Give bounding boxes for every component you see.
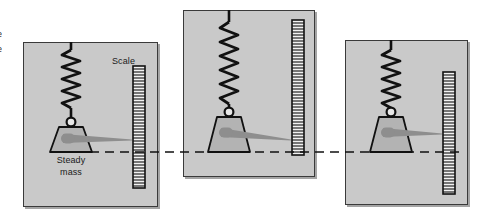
reference-line-layer [0, 0, 480, 224]
seismometer-figure: e e [0, 0, 480, 224]
